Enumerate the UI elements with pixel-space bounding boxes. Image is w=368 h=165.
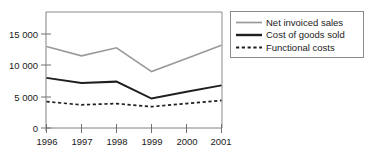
y-tick-label-10000: 10 000 [9, 60, 38, 71]
y-axis-labels: 15 000 10 000 5 000 0 [9, 29, 38, 134]
y-tick-label-0: 0 [33, 123, 38, 134]
x-tick-label-1999: 1999 [141, 136, 162, 147]
x-tick-label-1996: 1996 [36, 136, 57, 147]
x-tick-label-1998: 1998 [106, 136, 127, 147]
plot-frame [46, 12, 222, 131]
plot-frame-border [46, 12, 222, 128]
legend-label-cost-of-goods-sold: Cost of goods sold [266, 29, 345, 40]
series-line-net-invoiced-sales [47, 45, 222, 71]
chart-legend: Net invoiced sales Cost of goods sold Fu… [231, 12, 364, 58]
y-tick-label-15000: 15 000 [9, 29, 38, 40]
x-tick-label-2001: 2001 [210, 136, 231, 147]
line-chart: 15 000 10 000 5 000 0 1996 1997 1998 199… [0, 0, 368, 165]
series-line-functional-costs [47, 100, 222, 106]
series-line-cost-of-goods-sold [47, 78, 222, 99]
x-axis-labels: 1996 1997 1998 1999 2000 2001 [36, 136, 231, 147]
legend-label-net-invoiced-sales: Net invoiced sales [266, 17, 343, 28]
chart-figure: 15 000 10 000 5 000 0 1996 1997 1998 199… [0, 0, 368, 165]
data-series-group [47, 45, 222, 106]
x-tick-label-2000: 2000 [176, 136, 197, 147]
legend-label-functional-costs: Functional costs [266, 42, 335, 53]
y-tick-label-5000: 5 000 [14, 92, 38, 103]
x-tick-label-1997: 1997 [71, 136, 92, 147]
